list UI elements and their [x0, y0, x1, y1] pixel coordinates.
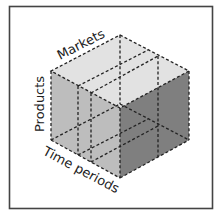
cube-diagram: Markets Products Time periods — [0, 0, 218, 218]
label-products: Products — [32, 76, 47, 132]
